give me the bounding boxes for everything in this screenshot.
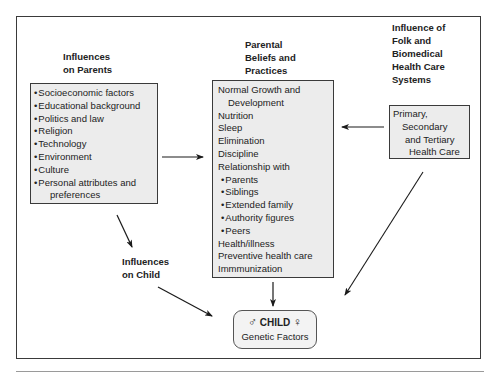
arrows-layer bbox=[0, 0, 499, 380]
caption-divider bbox=[16, 371, 484, 372]
arrow-healthcare-to-child-icon bbox=[345, 172, 423, 295]
arrow-influences-to-child-icon bbox=[158, 287, 212, 316]
arrow-parents-to-influences-child-icon bbox=[117, 215, 132, 247]
